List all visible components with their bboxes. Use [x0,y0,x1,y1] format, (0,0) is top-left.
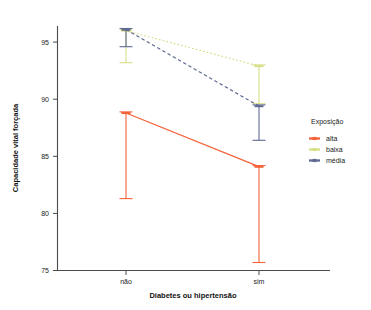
chart-canvas: 95 90 85 80 75 não sim Diabetes ou hiper… [0,0,371,310]
series-alta-line [126,113,259,167]
y-tick-label-90: 90 [41,96,49,103]
series-media-marker-sim [255,105,264,107]
legend-title: Exposição [311,118,343,126]
y-tick-labels: 95 90 85 80 75 [41,39,49,274]
legend-item-media[interactable]: média [309,157,345,164]
series-alta-marker-nao [122,112,131,114]
y-axis-title: Capacidade vital forçada [11,103,20,192]
series-media-marker-nao [122,29,131,31]
legend: Exposição alta baixa média [309,118,345,164]
legend-item-baixa[interactable]: baixa [309,146,343,153]
legend-swatch-media-marker [313,159,317,162]
legend-label-media: média [326,157,345,164]
legend-swatch-baixa-marker [313,148,317,151]
x-tick-labels: não sim [120,278,264,285]
legend-label-baixa: baixa [326,146,343,153]
x-tick-label-nao: não [120,278,132,285]
x-tick-label-sim: sim [254,278,265,285]
series-media [120,29,266,141]
series-alta-marker-sim [255,166,264,168]
x-axis-title: Diabetes ou hipertensão [149,291,237,300]
series-baixa-marker-sim [255,65,264,67]
axes-group [58,26,331,271]
legend-label-alta: alta [326,135,337,142]
legend-item-alta[interactable]: alta [309,135,337,142]
y-tick-marks [53,42,58,270]
series-baixa [120,30,266,104]
series-media-line [126,30,259,107]
y-tick-label-75: 75 [41,267,49,274]
legend-swatch-alta-marker [313,137,317,140]
chart-figure: 95 90 85 80 75 não sim Diabetes ou hiper… [0,0,371,310]
y-tick-label-95: 95 [41,39,49,46]
series-alta [120,112,266,263]
y-tick-label-80: 80 [41,210,49,217]
x-tick-marks [126,271,259,276]
y-tick-label-85: 85 [41,153,49,160]
series-baixa-line [126,31,259,66]
